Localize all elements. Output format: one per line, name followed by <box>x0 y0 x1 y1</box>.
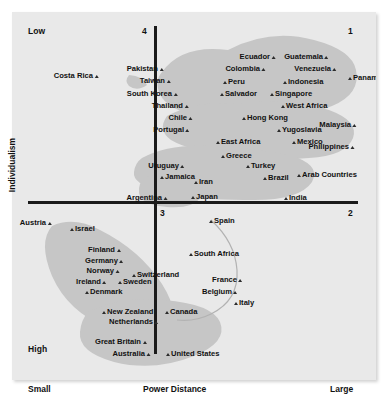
point-label: Jamaica <box>165 172 195 181</box>
point-label: Indonesia <box>288 77 323 86</box>
data-point: Hong Kong <box>240 114 288 122</box>
point-label: Great Britain <box>95 337 141 346</box>
point-label: Finland <box>88 245 115 254</box>
point-marker-icon <box>181 165 185 168</box>
point-marker-icon <box>120 260 124 263</box>
data-point: Israel <box>68 225 95 233</box>
point-label: Turkey <box>251 161 275 170</box>
data-point: Great Britain <box>95 338 148 346</box>
point-label: Singapore <box>275 89 312 98</box>
point-label: Sweden <box>123 277 152 286</box>
point-marker-icon <box>165 311 169 314</box>
point-label: Israel <box>75 224 95 233</box>
data-point: Ireland <box>76 278 108 286</box>
x-axis-title: Power Distance <box>143 384 206 394</box>
point-marker-icon <box>143 341 147 344</box>
point-marker-icon <box>216 141 220 144</box>
axis-vertical-upper <box>154 26 157 202</box>
point-marker-icon <box>118 281 122 284</box>
point-label: Pakistan <box>127 64 158 73</box>
data-point: Germany <box>85 257 125 265</box>
point-marker-icon <box>186 129 190 132</box>
x-axis-large-label: Large <box>330 384 353 394</box>
point-marker-icon <box>116 270 120 273</box>
point-label: Yugoslavia <box>282 125 322 134</box>
point-label: Germany <box>85 256 118 265</box>
point-marker-icon <box>117 249 121 252</box>
point-label: East Africa <box>221 137 260 146</box>
data-point: Argentina <box>127 194 169 202</box>
point-marker-icon <box>185 105 189 108</box>
point-label: South Korea <box>127 89 172 98</box>
point-marker-icon <box>272 56 276 59</box>
data-point: West Africa <box>279 102 327 110</box>
point-marker-icon <box>284 197 288 200</box>
data-point: Guatemala <box>284 53 330 61</box>
point-label: Malaysia <box>319 120 351 129</box>
y-axis-title: Individualism <box>7 135 17 195</box>
quadrant-number-1: 1 <box>348 26 353 36</box>
quadrant-number-2: 2 <box>348 208 353 218</box>
point-label: Colombia <box>225 64 260 73</box>
point-label: United States <box>171 349 220 358</box>
point-label: Netherlands <box>109 317 153 326</box>
point-label: Argentina <box>127 193 162 202</box>
point-label: Costa Rica <box>54 71 93 80</box>
data-point: Chile <box>168 114 194 122</box>
point-label: Italy <box>239 298 254 307</box>
point-marker-icon <box>147 353 151 356</box>
point-marker-icon <box>263 177 267 180</box>
data-point: Norway <box>87 267 121 275</box>
point-label: Thailand <box>152 101 183 110</box>
point-label: Belgium <box>202 287 232 296</box>
point-label: Spain <box>214 216 235 225</box>
point-marker-icon <box>85 291 89 294</box>
point-label: Greece <box>226 151 252 160</box>
data-point: Salvador <box>218 90 257 98</box>
data-point: Greece <box>219 152 252 160</box>
point-marker-icon <box>353 124 357 127</box>
data-point: Spain <box>207 217 235 225</box>
point-marker-icon <box>164 197 168 200</box>
data-point: Finland <box>88 246 122 254</box>
data-point: Peru <box>221 78 245 86</box>
data-point: Sweden <box>116 278 152 286</box>
data-point: Austria <box>20 219 53 227</box>
point-marker-icon <box>270 93 274 96</box>
data-point: Brazil <box>261 174 289 182</box>
point-marker-icon <box>351 146 355 149</box>
point-label: France <box>212 275 237 284</box>
axis-horizontal <box>28 201 358 204</box>
point-label: Norway <box>87 266 114 275</box>
point-label: Philippines <box>308 142 349 151</box>
data-point: Philippines <box>308 143 356 151</box>
point-marker-icon <box>103 281 107 284</box>
data-point: East Africa <box>214 138 260 146</box>
point-marker-icon <box>160 176 164 179</box>
point-label: Australia <box>113 349 146 358</box>
point-marker-icon <box>223 81 227 84</box>
point-label: Uruguay <box>148 161 179 170</box>
scatter-plot-canvas: Low High 4 1 3 2 Costa RicaPakistanTaiwa… <box>12 12 376 380</box>
quadrant-number-3: 3 <box>160 208 165 218</box>
quadrant-number-4: 4 <box>142 26 147 36</box>
point-marker-icon <box>174 93 178 96</box>
data-point: New Zealand <box>100 308 153 316</box>
point-label: Arab Countries <box>302 170 357 179</box>
data-point: Singapore <box>268 90 312 98</box>
point-label: Ecuador <box>240 52 270 61</box>
data-point: India <box>282 194 307 202</box>
point-marker-icon <box>166 353 170 356</box>
point-label: Venezuela <box>294 64 331 73</box>
point-label: Austria <box>20 218 46 227</box>
point-marker-icon <box>239 279 243 282</box>
point-label: Portugal <box>153 125 184 134</box>
point-label: Ireland <box>76 277 101 286</box>
point-label: South Africa <box>194 249 239 258</box>
data-point: South Korea <box>127 90 179 98</box>
point-marker-icon <box>283 81 287 84</box>
data-point: Indonesia <box>281 78 323 86</box>
point-marker-icon <box>102 311 106 314</box>
point-marker-icon <box>325 56 329 59</box>
point-label: Salvador <box>225 89 257 98</box>
